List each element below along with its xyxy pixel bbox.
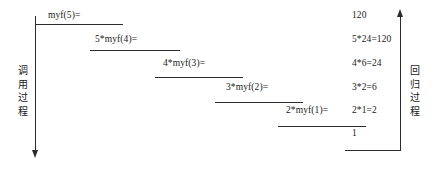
return-value-label: 2*1=2 bbox=[352, 105, 377, 116]
return-value-label: 5*24=120 bbox=[352, 34, 391, 45]
right-axis-arrowhead-icon bbox=[397, 9, 403, 17]
left-axis-arrowhead-icon bbox=[32, 150, 38, 158]
left-axis-line bbox=[35, 16, 36, 151]
return-value-label: 4*6=24 bbox=[352, 58, 382, 69]
call-step-line bbox=[278, 126, 366, 127]
left-axis-caption: 调用过程 bbox=[17, 64, 29, 118]
call-step-line bbox=[155, 77, 243, 78]
right-axis-line bbox=[400, 16, 401, 151]
recursion-call-return-diagram: 调用过程 myf(5)= 5*myf(4)= 4*myf(3)= 3*myf(2… bbox=[0, 0, 434, 179]
call-step-label: myf(5)= bbox=[48, 10, 80, 21]
call-step-label: 4*myf(3)= bbox=[163, 58, 205, 69]
bottom-step-line bbox=[345, 150, 400, 151]
call-step-line bbox=[90, 50, 180, 51]
call-step-line bbox=[35, 24, 123, 25]
right-axis-caption: 回归过程 bbox=[409, 64, 421, 118]
call-step-label: 5*myf(4)= bbox=[95, 34, 137, 45]
return-value-label: 1 bbox=[352, 128, 357, 139]
call-step-line bbox=[215, 102, 303, 103]
return-value-label: 120 bbox=[352, 10, 367, 21]
return-value-label: 3*2=6 bbox=[352, 82, 377, 93]
call-step-label: 3*myf(2)= bbox=[226, 82, 268, 93]
call-step-label: 2*myf(1)= bbox=[286, 105, 328, 116]
